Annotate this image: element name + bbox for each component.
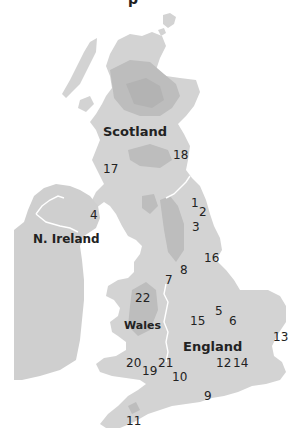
region-label-n-ireland: N. Ireland xyxy=(33,232,100,246)
map-marker-8[interactable]: 8 xyxy=(180,263,188,277)
skye-island xyxy=(78,96,94,112)
map-marker-1[interactable]: 1 xyxy=(191,196,199,210)
map-marker-6[interactable]: 6 xyxy=(229,314,237,328)
map-marker-2[interactable]: 2 xyxy=(199,205,207,219)
map-marker-20[interactable]: 20 xyxy=(126,356,141,370)
map-marker-10[interactable]: 10 xyxy=(172,370,187,384)
map-marker-16[interactable]: 16 xyxy=(204,251,219,265)
map-marker-22[interactable]: 22 xyxy=(135,291,150,305)
map-marker-11[interactable]: 11 xyxy=(126,414,141,428)
map-marker-21[interactable]: 21 xyxy=(158,356,173,370)
region-label-england: England xyxy=(183,339,242,354)
map-marker-12[interactable]: 12 xyxy=(216,356,231,370)
region-label-scotland: Scotland xyxy=(103,124,167,139)
map-marker-4[interactable]: 4 xyxy=(90,208,98,222)
uk-map: p Scotland N. Ireland Wales England 1 2 … xyxy=(0,0,307,442)
map-marker-13[interactable]: 13 xyxy=(273,330,288,344)
map-marker-9[interactable]: 9 xyxy=(204,389,212,403)
map-marker-19[interactable]: 19 xyxy=(142,364,157,378)
orkney-islands xyxy=(158,28,166,36)
map-marker-3[interactable]: 3 xyxy=(192,220,200,234)
map-marker-17[interactable]: 17 xyxy=(103,162,118,176)
map-marker-14[interactable]: 14 xyxy=(233,356,248,370)
shetland-islands xyxy=(163,13,176,28)
map-marker-18[interactable]: 18 xyxy=(173,148,188,162)
map-marker-7[interactable]: 7 xyxy=(165,273,173,287)
region-label-wales: Wales xyxy=(124,319,161,332)
map-marker-5[interactable]: 5 xyxy=(215,304,223,318)
map-marker-15[interactable]: 15 xyxy=(190,314,205,328)
outer-hebrides xyxy=(62,38,97,98)
ireland xyxy=(14,184,100,380)
